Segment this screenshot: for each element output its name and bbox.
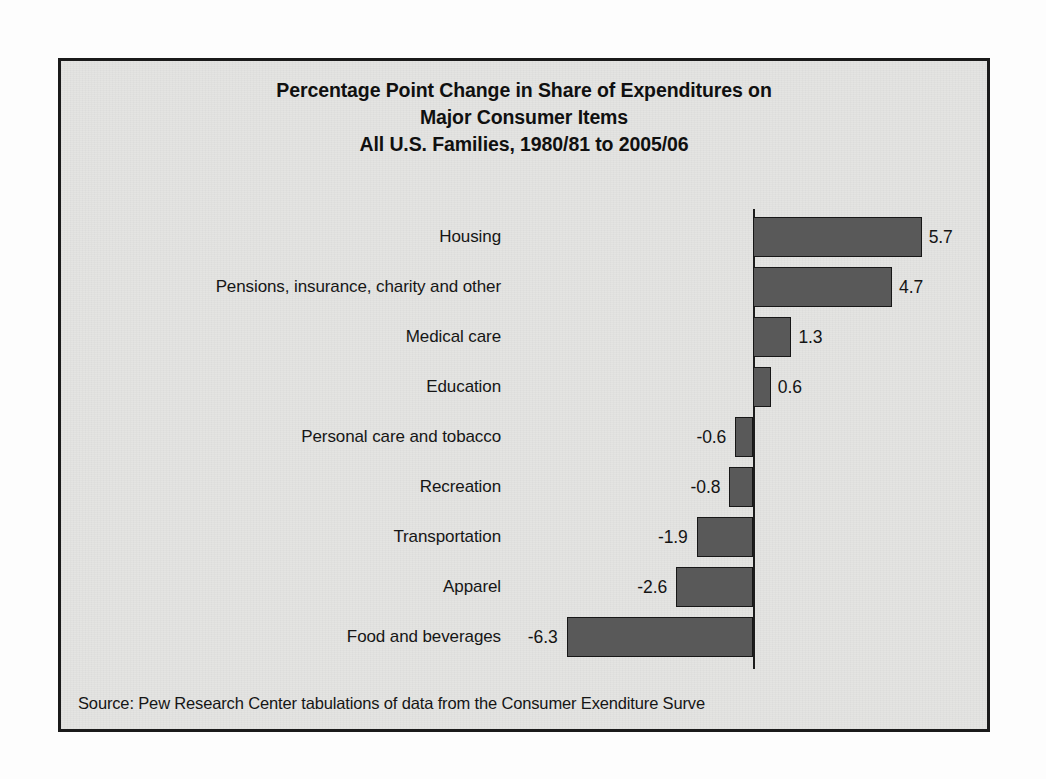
value-label: -0.8: [691, 477, 721, 498]
bar-row: Apparel-2.6: [61, 562, 987, 612]
value-label: 5.7: [929, 227, 953, 248]
value-label: 1.3: [798, 327, 822, 348]
source-note: Source: Pew Research Center tabulations …: [78, 694, 705, 713]
chart-title: Percentage Point Change in Share of Expe…: [61, 77, 987, 158]
category-label: Pensions, insurance, charity and other: [61, 277, 501, 297]
bar: [753, 317, 791, 357]
bar-row: Medical care1.3: [61, 312, 987, 362]
value-label: 0.6: [778, 377, 802, 398]
category-label: Housing: [61, 227, 501, 247]
category-label: Transportation: [61, 527, 501, 547]
value-label: -1.9: [658, 527, 688, 548]
bar: [729, 467, 753, 507]
bar-row: Personal care and tobacco-0.6: [61, 412, 987, 462]
bar-row: Housing5.7: [61, 212, 987, 262]
category-label: Food and beverages: [61, 627, 501, 647]
category-label: Recreation: [61, 477, 501, 497]
value-label: -2.6: [637, 577, 667, 598]
chart-title-line-1: Percentage Point Change in Share of Expe…: [61, 77, 987, 104]
bar: [753, 367, 771, 407]
category-label: Apparel: [61, 577, 501, 597]
bar: [735, 417, 753, 457]
scanned-page: Percentage Point Change in Share of Expe…: [0, 0, 1046, 779]
bar-row: Transportation-1.9: [61, 512, 987, 562]
chart-panel: Percentage Point Change in Share of Expe…: [58, 58, 990, 732]
bar: [676, 567, 753, 607]
bar: [753, 217, 922, 257]
chart-title-line-2: Major Consumer Items: [61, 104, 987, 131]
value-label: 4.7: [899, 277, 923, 298]
value-label: -6.3: [528, 627, 558, 648]
chart-title-line-3: All U.S. Families, 1980/81 to 2005/06: [61, 131, 987, 158]
bar-row: Recreation-0.8: [61, 462, 987, 512]
bar: [753, 267, 892, 307]
value-label: -0.6: [696, 427, 726, 448]
bar-row: Pensions, insurance, charity and other4.…: [61, 262, 987, 312]
category-label: Personal care and tobacco: [61, 427, 501, 447]
bar: [567, 617, 753, 657]
category-label: Medical care: [61, 327, 501, 347]
bar-row: Education0.6: [61, 362, 987, 412]
category-label: Education: [61, 377, 501, 397]
plot-area: Housing5.7Pensions, insurance, charity a…: [61, 204, 987, 674]
bar: [697, 517, 753, 557]
bar-row: Food and beverages-6.3: [61, 612, 987, 662]
